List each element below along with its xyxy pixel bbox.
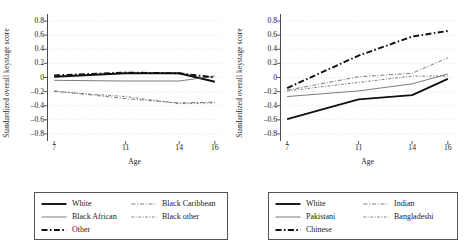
legend-row: WhiteBlack Caribbean — [41, 197, 221, 210]
legend-row: PakistaniBangladeshi — [275, 210, 451, 223]
x-tick-label: 14 — [408, 143, 416, 152]
legend-line-icon — [363, 199, 389, 209]
x-axis-label-left: Age — [47, 157, 222, 166]
series-line — [287, 79, 448, 119]
line-plot-left — [42, 14, 223, 146]
legend-line-icon — [275, 212, 301, 222]
legend-label: White — [306, 199, 326, 208]
legend-label: Indian — [394, 199, 414, 208]
x-tick-label: 11 — [355, 143, 362, 152]
legend-row: WhiteIndian — [275, 197, 451, 210]
legend-row: Chinese — [275, 223, 451, 236]
legend-label: White — [72, 199, 92, 208]
series-line — [54, 91, 215, 103]
figure-two-line-charts: Standardized overall keystage score 0.80… — [0, 0, 466, 250]
legend-line-icon — [275, 225, 301, 235]
legend-label: Black African — [72, 212, 117, 221]
legend-item-pakistani[interactable]: Pakistani — [275, 212, 363, 222]
legend-line-icon — [41, 225, 67, 235]
y-axis-ticks-right: 0.80.60.40.20–0.2–0.4–0.6–0.8 — [251, 14, 277, 141]
series-line — [287, 58, 448, 90]
legend-line-icon — [131, 199, 157, 209]
legend-item-white[interactable]: White — [275, 199, 363, 209]
legend-item-black-caribbean[interactable]: Black Caribbean — [131, 199, 221, 209]
legend-item-chinese[interactable]: Chinese — [275, 225, 367, 235]
x-tick-label: 16 — [211, 143, 219, 152]
legend-label: Other — [72, 225, 90, 234]
legend-item-bangladeshi[interactable]: Bangladeshi — [363, 212, 451, 222]
legend-left: WhiteBlack CaribbeanBlack AfricanBlack o… — [34, 192, 228, 240]
x-tick-label: 14 — [175, 143, 183, 152]
legend-right: WhiteIndianPakistaniBangladeshiChinese — [268, 192, 458, 240]
legend-label: Chinese — [306, 225, 332, 234]
legend-label: Bangladeshi — [394, 212, 434, 221]
legend-label: Black other — [162, 212, 199, 221]
legend-line-icon — [275, 199, 301, 209]
legend-row: Other — [41, 223, 221, 236]
legend-row: Black AfricanBlack other — [41, 210, 221, 223]
legend-item-black-african[interactable]: Black African — [41, 212, 131, 222]
legend-label: Pakistani — [306, 212, 335, 221]
y-axis-label-left: Standardized overall keystage score — [2, 0, 14, 8]
chart-panel-left: Standardized overall keystage score 0.80… — [0, 0, 233, 186]
legend-line-icon — [41, 199, 67, 209]
y-axis-ticks-left: 0.80.60.40.20–0.2–0.4–0.6–0.8 — [18, 14, 44, 141]
y-axis-label-right: Standardized overall keystage score — [235, 0, 247, 8]
legend-item-black-other[interactable]: Black other — [131, 212, 221, 222]
legend-line-icon — [131, 212, 157, 222]
chart-panel-right: Standardized overall keystage score 0.80… — [233, 0, 466, 186]
plot-area-left — [42, 14, 217, 141]
legend-label: Black Caribbean — [162, 199, 216, 208]
x-tick-label: 7 — [285, 143, 289, 152]
legend-line-icon — [363, 212, 389, 222]
legend-line-icon — [41, 212, 67, 222]
legend-item-indian[interactable]: Indian — [363, 199, 451, 209]
legend-item-white[interactable]: White — [41, 199, 131, 209]
series-line — [54, 92, 215, 104]
series-line — [287, 76, 448, 91]
line-plot-right — [275, 14, 456, 146]
x-tick-label: 11 — [122, 143, 129, 152]
x-axis-label-right: Age — [280, 157, 455, 166]
series-line — [287, 31, 448, 88]
x-tick-label: 7 — [52, 143, 56, 152]
plot-area-right — [275, 14, 450, 141]
legend-item-other[interactable]: Other — [41, 225, 137, 235]
x-tick-label: 16 — [444, 143, 452, 152]
